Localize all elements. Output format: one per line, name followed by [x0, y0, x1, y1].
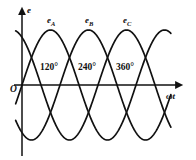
origin-label: O — [10, 85, 17, 95]
curve-label-e-a-sub: A — [51, 20, 55, 27]
curve-label-e-c-sub: C — [127, 20, 131, 27]
axes-group — [14, 14, 176, 156]
three-phase-waveform-figure: e ωt O eA eB eC 120° 240° 360° — [0, 0, 196, 160]
angle-label-360: 360° — [116, 63, 134, 73]
y-axis-label: e — [27, 6, 31, 15]
curve-label-e-a: eA — [47, 16, 55, 27]
curve-label-e-b: eB — [85, 16, 93, 27]
curve-label-e-b-sub: B — [89, 20, 93, 27]
x-axis-label: ωt — [166, 92, 175, 101]
angle-label-120: 120° — [40, 63, 58, 73]
angle-label-240: 240° — [78, 63, 96, 73]
waveform-plot-svg — [0, 0, 196, 160]
curve-label-e-c: eC — [123, 16, 131, 27]
